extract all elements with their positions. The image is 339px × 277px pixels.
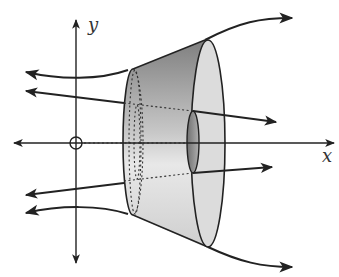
y-axis-label: y bbox=[88, 16, 98, 34]
diagram: y x bbox=[0, 0, 339, 277]
solid-of-revolution-figure bbox=[0, 0, 339, 277]
x-axis-label: x bbox=[322, 147, 332, 165]
upper-outer-curve-right bbox=[205, 18, 292, 40]
upper-inner-line bbox=[26, 91, 124, 103]
upper-outer-curve bbox=[26, 70, 128, 78]
hole-ellipse bbox=[187, 111, 199, 173]
lower-inner-line bbox=[26, 183, 124, 195]
lower-outer-curve bbox=[26, 207, 128, 214]
lower-outer-curve-right bbox=[208, 247, 292, 267]
